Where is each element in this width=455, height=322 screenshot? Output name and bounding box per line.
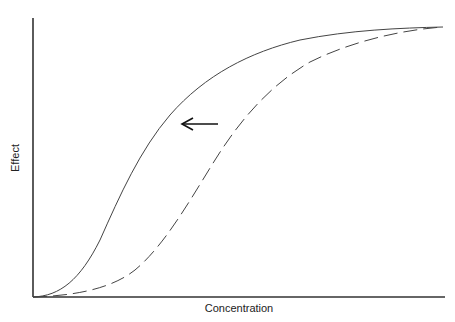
solid-curve bbox=[33, 27, 443, 297]
dashed-curve bbox=[33, 27, 443, 297]
arrow-left-icon bbox=[182, 118, 218, 130]
chart: Concentration Effect bbox=[0, 0, 455, 322]
x-axis-label: Concentration bbox=[205, 302, 274, 314]
y-axis-label: Effect bbox=[9, 144, 21, 172]
